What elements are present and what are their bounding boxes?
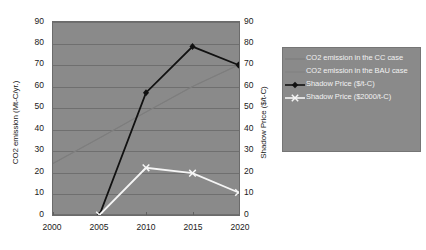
y-axis-right-tick: 50: [244, 101, 268, 111]
x-axis-tick: 2020: [220, 222, 260, 232]
legend-item-shadow-price-usd-t-c[interactable]: Shadow Price ($/t-C): [283, 79, 420, 90]
legend-label: CO2 emission in the BAU case: [306, 66, 411, 76]
y-axis-left-tick: 40: [20, 123, 44, 133]
y-axis-right-tick: 0: [244, 209, 268, 219]
series-line-co2-cc: [53, 65, 239, 164]
chart-legend: CO2 emission in the CC case CO2 emission…: [282, 47, 421, 152]
legend-label: Shadow Price ($/t-C): [306, 79, 378, 89]
legend-item-co2-bau[interactable]: CO2 emission in the BAU case: [283, 66, 420, 77]
y-axis-right-tick: 40: [244, 123, 268, 133]
series-markers-shadow-price-usd-t-c: [97, 43, 240, 215]
legend-marker-x-icon: [284, 92, 306, 103]
legend-marker-line-icon: [284, 53, 306, 64]
legend-marker-diamond-icon: [284, 79, 306, 90]
y-axis-left-tick: 60: [20, 80, 44, 90]
y-axis-right-tick: 60: [244, 80, 268, 90]
chart-figure: CO2 emission (Mt-C/yr.) Shadow Price ($/…: [0, 0, 426, 250]
legend-item-shadow-price-usd2000-t-c[interactable]: Shadow Price ($2000/t-C): [283, 92, 420, 103]
series-line-shadow-price-usd-t-c: [100, 47, 239, 215]
x-axis-tick: 2010: [126, 222, 166, 232]
legend-label: Shadow Price ($2000/t-C): [306, 92, 394, 102]
y-axis-right-tick: 30: [244, 144, 268, 154]
legend-label: CO2 emission in the CC case: [306, 53, 406, 63]
y-axis-left-tick: 50: [20, 101, 44, 111]
y-axis-right-tick: 10: [244, 187, 268, 197]
series-line-shadow-price-usd2000-t-c: [100, 168, 239, 215]
x-axis-tick: 2005: [79, 222, 119, 232]
legend-item-co2-cc[interactable]: CO2 emission in the CC case: [283, 53, 420, 64]
plot-area: [52, 21, 240, 216]
y-axis-left-tick: 90: [20, 16, 44, 26]
x-axis-tick: 2015: [173, 222, 213, 232]
y-axis-left-tick: 0: [20, 209, 44, 219]
series-container: [53, 22, 239, 215]
series-markers-shadow-price-usd2000-t-c: [96, 165, 239, 216]
y-axis-left-tick: 30: [20, 144, 44, 154]
legend-marker-line-icon: [284, 66, 306, 77]
y-axis-left-tick: 70: [20, 58, 44, 68]
y-axis-left-title: CO2 emission (Mt-C/yr.): [11, 63, 20, 183]
y-axis-right-tick: 20: [244, 166, 268, 176]
y-axis-left-tick: 80: [20, 37, 44, 47]
y-axis-right-tick: 80: [244, 37, 268, 47]
y-axis-left-tick: 20: [20, 166, 44, 176]
y-axis-right-tick: 90: [244, 16, 268, 26]
x-axis-tick: 2000: [32, 222, 72, 232]
y-axis-right-tick: 70: [244, 58, 268, 68]
y-axis-left-tick: 10: [20, 187, 44, 197]
